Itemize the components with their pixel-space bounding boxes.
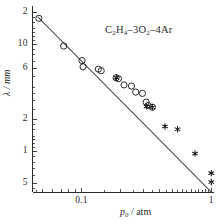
- x-axis-tick-label: 0.1: [61, 196, 101, 206]
- x-axis-title-subscript: 0: [125, 211, 128, 218]
- x-axis-title-unit: / atm: [128, 206, 151, 217]
- annotation-ar: –4Ar: [150, 24, 172, 35]
- y-axis-tick-label: 1: [0, 146, 28, 156]
- chart-figure: 2106215 0.11 λ / mm p0 / atm C2H4–3O2–4A…: [0, 0, 222, 224]
- data-point-circle: [139, 90, 145, 96]
- y-axis-tick-label: 2: [0, 114, 28, 124]
- y-axis-tick-label: 10: [0, 39, 28, 49]
- data-point-circle: [128, 83, 134, 89]
- data-point-star-core: [210, 181, 212, 183]
- data-point-star-core: [210, 172, 212, 174]
- data-point-circle: [133, 89, 139, 95]
- y-axis-title: λ / mm: [2, 69, 12, 96]
- y-axis-title-text: λ / mm: [1, 69, 12, 96]
- annotation-h-sub: 4: [124, 29, 128, 37]
- data-point-star-core: [151, 106, 153, 108]
- data-point-star-core: [194, 152, 196, 154]
- x-axis-tick-label: 1: [191, 196, 222, 206]
- data-point-star-core: [164, 125, 166, 127]
- y-axis-tick-label: 5: [0, 178, 28, 188]
- data-point-star-core: [176, 128, 178, 130]
- data-point-circle: [80, 64, 86, 70]
- y-axis-tick-label: 2: [0, 7, 28, 17]
- data-point-circle: [61, 43, 67, 49]
- data-point-star-core: [115, 77, 117, 79]
- mixture-annotation: C2H4–3O2–4Ar: [105, 25, 172, 36]
- x-axis-title: p0 / atm: [120, 207, 151, 217]
- data-points-group: [36, 15, 214, 185]
- annotation-o-sub: 2: [146, 29, 150, 37]
- data-point-star-core: [146, 105, 148, 107]
- annotation-h: H: [116, 24, 124, 35]
- annotation-c-sub: 2: [112, 29, 116, 37]
- data-point-circle: [121, 82, 127, 88]
- data-point-circle: [79, 57, 85, 63]
- annotation-o: –3O: [128, 24, 147, 35]
